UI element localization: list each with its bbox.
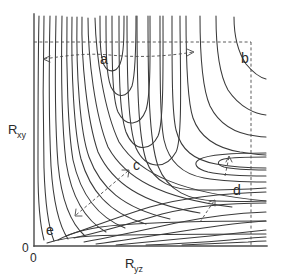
arrow-c-path — [76, 171, 128, 215]
contour-line — [55, 16, 85, 236]
contour-line — [200, 16, 266, 137]
label-d: d — [233, 182, 241, 198]
contour-line — [82, 17, 200, 213]
y-axis-label: R — [8, 122, 17, 137]
feature-labels: a b c d e — [46, 50, 249, 238]
contour-plot-figure: a b c d e R xy R yz 0 0 — [0, 0, 286, 276]
contour-line — [72, 17, 146, 224]
contour-line — [49, 16, 68, 239]
x-axis-label: R — [125, 256, 134, 271]
y-axis-label-subscript: xy — [17, 130, 27, 140]
label-b: b — [241, 50, 249, 66]
x-axis-origin-tick: 0 — [30, 251, 37, 265]
contour-line — [119, 16, 163, 148]
contour-line — [62, 16, 106, 232]
x-axis-label-subscript: yz — [134, 264, 144, 274]
contour-line — [84, 212, 266, 242]
label-c: c — [133, 157, 140, 173]
label-e: e — [46, 222, 54, 238]
label-a: a — [100, 51, 108, 67]
contour-line — [43, 16, 54, 241]
y-axis-origin-tick: 0 — [22, 241, 29, 255]
contour-line — [234, 17, 266, 79]
contour-line — [196, 153, 266, 176]
arrow-c-lower-head — [75, 209, 82, 216]
contour-set — [38, 16, 266, 245]
contour-line — [112, 16, 150, 123]
